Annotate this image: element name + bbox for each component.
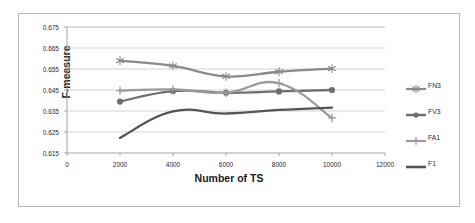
legend-swatch-f1 — [405, 158, 427, 168]
chart-legend: FN3 FV3 FA1 F1 — [405, 72, 475, 176]
legend-swatch-fa1 — [405, 132, 427, 142]
legend-label-f1: F1 — [428, 160, 436, 167]
legend-label-fa1: FA1 — [428, 134, 440, 141]
chart-frame: F-measure Number of TS 0.675 0.665 0.655… — [18, 13, 460, 207]
chart-figure: F-measure Number of TS 0.675 0.665 0.655… — [0, 0, 475, 223]
legend-swatch-fv3 — [405, 106, 427, 116]
plot-area — [19, 14, 461, 208]
legend-item-fa1[interactable]: FA1 — [405, 124, 475, 150]
legend-label-fv3: FV3 — [428, 108, 440, 115]
series-fa1 — [116, 79, 336, 122]
legend-item-fn3[interactable]: FN3 — [405, 72, 475, 98]
legend-swatch-fn3 — [405, 80, 427, 90]
series-fn3 — [116, 56, 336, 81]
legend-label-fn3: FN3 — [428, 82, 441, 89]
legend-item-f1[interactable]: F1 — [405, 150, 475, 176]
series-f1 — [120, 108, 332, 138]
legend-item-fv3[interactable]: FV3 — [405, 98, 475, 124]
